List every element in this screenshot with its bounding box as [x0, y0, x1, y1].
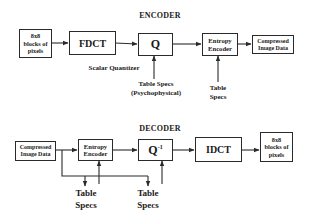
entropy-table-line1: Table: [204, 84, 232, 93]
encoder-input-line3: pixels: [28, 47, 43, 55]
decoder-entropy-box: Entropy Encoder: [78, 139, 113, 161]
dec-entropy-table-line2: Specs: [70, 199, 102, 211]
encoder-title: ENCODER: [134, 11, 186, 20]
decoder-input-box: Compressed Image Data: [15, 141, 56, 161]
decoder-title: DECODER: [134, 124, 186, 133]
dequantizer-label: Q-1: [148, 143, 162, 158]
encoder-input-blocks-box: 8x8 blocks of pixels: [19, 29, 52, 58]
idct-label: IDCT: [206, 144, 231, 155]
dec-entropy-table-line1: Table: [70, 187, 102, 199]
encoder-quant-table-specs: Table Specs (Psychophysical): [128, 80, 184, 98]
encoder-entropy-table-specs: Table Specs: [204, 84, 232, 102]
decoder-entropy-line2: Encoder: [84, 150, 108, 158]
encoder-entropy-box: Entropy Encoder: [202, 33, 238, 56]
quant-table-line1: Table Specs: [128, 80, 184, 89]
dec-quant-table-line2: Specs: [132, 199, 164, 211]
encoder-output-line2: Image Data: [258, 45, 288, 52]
decoder-output-blocks-box: 8x8 blocks of pixels: [260, 132, 293, 162]
fdct-label: FDCT: [79, 38, 106, 49]
dec-quant-table-line1: Table: [132, 187, 164, 199]
decoder-input-line2: Image Data: [21, 151, 51, 158]
decoder-output-line3: pixels: [269, 151, 284, 159]
fdct-box: FDCT: [69, 31, 116, 55]
quant-table-line2: (Psychophysical): [128, 89, 184, 98]
dequantizer-superscript: -1: [158, 144, 163, 150]
decoder-quant-table-specs: Table Specs: [132, 187, 164, 211]
quantizer-label: Q: [151, 37, 160, 52]
encoder-entropy-line2: Encoder: [208, 45, 232, 53]
decoder-input-line1: Compressed: [20, 144, 52, 151]
entropy-table-line2: Specs: [204, 93, 232, 102]
arrow-fdct-to-q: [115, 43, 137, 44]
dequantizer-q: Q: [148, 143, 157, 157]
dequantizer-box: Q-1: [138, 139, 173, 161]
encoder-input-line1: 8x8: [31, 32, 40, 40]
idct-box: IDCT: [195, 137, 242, 162]
encoder-output-box: Compressed Image Data: [252, 35, 294, 54]
decoder-entropy-table-specs: Table Specs: [70, 187, 102, 211]
quantizer-box: Q: [138, 33, 173, 56]
scalar-quantizer-caption: Scalar Quantizer: [83, 64, 145, 73]
decoder-entropy-line1: Entropy: [84, 143, 107, 151]
encoder-input-line2: blocks of: [24, 40, 48, 48]
decoder-output-line1: 8x8: [272, 136, 281, 144]
decoder-output-line2: blocks of: [265, 143, 289, 151]
encoder-entropy-line1: Entropy: [208, 37, 231, 45]
encoder-output-line1: Compressed: [257, 38, 289, 45]
